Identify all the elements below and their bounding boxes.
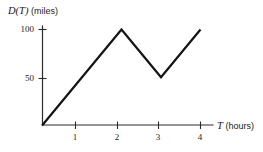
- y-axis-title: D(T) (miles): [8, 6, 58, 17]
- x-tick-label-3-text: 3: [156, 132, 161, 142]
- y-tick-label-100-text: 100: [21, 24, 35, 34]
- y-tick-label-50-text: 50: [25, 73, 34, 83]
- x-axis-title-variable: T: [217, 120, 223, 131]
- x-tick-label-3: 3: [156, 133, 161, 142]
- x-tick-label-4-text: 4: [198, 132, 203, 142]
- y-axis-title-unit: (miles): [31, 6, 58, 16]
- data-series-line: [43, 30, 201, 126]
- x-tick-label-4: 4: [198, 133, 203, 142]
- chart-figure: 100 50 1 2 3 4 D(T) (miles) T (hours): [0, 0, 263, 152]
- x-axis-title-unit: (hours): [225, 121, 254, 131]
- y-tick-label-100: 100: [10, 25, 34, 34]
- x-tick-label-1: 1: [73, 133, 78, 142]
- y-axis-title-variable: D(T): [8, 5, 28, 16]
- x-axis-title: T (hours): [217, 121, 254, 132]
- x-tick-label-2-text: 2: [115, 132, 120, 142]
- y-tick-label-50: 50: [10, 74, 34, 83]
- x-tick-label-2: 2: [115, 133, 120, 142]
- x-tick-label-1-text: 1: [73, 132, 78, 142]
